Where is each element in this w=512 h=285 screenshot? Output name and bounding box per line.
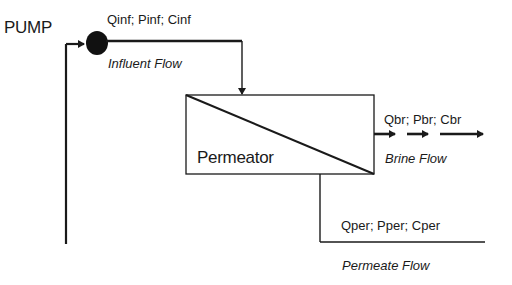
influent-variables: Qinf; Pinf; Cinf — [107, 12, 191, 27]
influent-flow-label: Influent Flow — [108, 56, 182, 71]
permeator-label: Permeator — [197, 148, 274, 168]
brine-flow-label: Brine Flow — [385, 151, 446, 166]
diagram-lines — [0, 0, 512, 285]
permeate-flow-label: Permeate Flow — [342, 258, 429, 273]
brine-variables: Qbr; Pbr; Cbr — [384, 112, 461, 127]
feed-line — [66, 44, 84, 244]
permeate-variables: Qper; Pper; Cper — [341, 218, 440, 233]
pump-label: PUMP — [4, 18, 52, 38]
process-diagram: PUMP Qinf; Pinf; Cinf Influent Flow Perm… — [0, 0, 512, 285]
pump-icon — [86, 31, 108, 55]
